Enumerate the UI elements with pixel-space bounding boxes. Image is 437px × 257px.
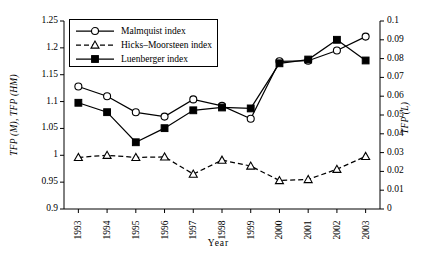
x-axis-tick-label: 1994 <box>102 214 112 246</box>
data-point-marker <box>218 156 226 163</box>
y-axis-right-tick-label: 0.1 <box>387 15 427 25</box>
y-axis-left-tick-label: 1.05 <box>16 122 58 132</box>
legend-swatch <box>75 25 115 37</box>
legend-label: Luenberger index <box>121 54 188 64</box>
y-axis-left-tick-label: 0.9 <box>16 203 58 213</box>
data-point-marker <box>161 113 168 120</box>
y-axis-right-tick-label: 0.08 <box>387 53 427 63</box>
x-axis-tick-label: 1993 <box>73 214 83 246</box>
y-axis-left-tick-label: 1.2 <box>16 42 58 52</box>
legend-label: Hicks–Moorsteen index <box>121 40 212 50</box>
chart-legend: Malmquist indexHicks–Moorsteen indexLuen… <box>69 19 218 67</box>
data-point-marker <box>333 165 341 172</box>
y-axis-left-tick-label: 1.1 <box>16 96 58 106</box>
x-axis-tick-label: 2001 <box>303 214 313 246</box>
y-axis-right-tick-label: 0.02 <box>387 165 427 175</box>
x-axis-tick-label: 1997 <box>188 214 198 246</box>
data-point-marker <box>161 125 168 132</box>
data-point-marker <box>75 99 82 106</box>
x-axis-tick-label: 1998 <box>217 214 227 246</box>
y-axis-left-tick-label: 1 <box>16 149 58 159</box>
chart-figure: TFP (M), TFP (HM) TFP (L) Year 0.90.9511… <box>0 0 437 257</box>
data-point-marker <box>132 109 139 116</box>
data-point-marker <box>103 151 111 158</box>
y-axis-right-tick-label: 0.09 <box>387 34 427 44</box>
y-axis-left-tick-label: 1.15 <box>16 69 58 79</box>
data-point-marker <box>362 33 369 40</box>
x-axis-tick-label: 2000 <box>274 214 284 246</box>
legend-item: Luenberger index <box>75 52 188 66</box>
data-point-marker <box>104 109 111 116</box>
x-axis-tick-label: 1995 <box>131 214 141 246</box>
data-point-marker <box>362 152 370 159</box>
x-axis-tick-label: 1996 <box>160 214 170 246</box>
data-point-marker <box>333 47 340 54</box>
x-axis-tick-label: 1999 <box>246 214 256 246</box>
y-axis-right-tick-label: 0 <box>387 203 427 213</box>
data-point-marker <box>362 57 369 64</box>
data-point-marker <box>247 115 254 122</box>
data-point-marker <box>276 60 283 67</box>
legend-label: Malmquist index <box>121 26 186 36</box>
data-point-marker <box>190 107 197 114</box>
y-axis-right-tick-label: 0.03 <box>387 147 427 157</box>
series-2 <box>74 151 369 183</box>
data-point-marker <box>247 105 254 112</box>
data-point-marker <box>219 104 226 111</box>
data-point-marker <box>189 170 197 177</box>
data-point-marker <box>75 83 82 90</box>
legend-item: Malmquist index <box>75 24 186 38</box>
data-point-marker <box>334 36 341 43</box>
x-axis-tick-label: 2002 <box>332 214 342 246</box>
y-axis-right-tick-label: 0.05 <box>387 109 427 119</box>
y-axis-right-tick-label: 0.01 <box>387 184 427 194</box>
y-axis-left-tick-label: 1.25 <box>16 15 58 25</box>
data-point-marker <box>104 93 111 100</box>
legend-marker <box>92 28 99 35</box>
legend-item: Hicks–Moorsteen index <box>75 38 212 52</box>
x-axis-tick-label: 2003 <box>361 214 371 246</box>
y-axis-right-tick-label: 0.06 <box>387 90 427 100</box>
legend-swatch <box>75 53 115 65</box>
data-point-marker <box>305 56 312 63</box>
y-axis-right-tick-label: 0.07 <box>387 71 427 81</box>
y-axis-left-tick-label: 0.95 <box>16 176 58 186</box>
data-point-marker <box>132 139 139 146</box>
legend-marker <box>92 56 99 63</box>
legend-swatch <box>75 39 115 51</box>
data-point-marker <box>190 96 197 103</box>
y-axis-right-tick-label: 0.04 <box>387 128 427 138</box>
